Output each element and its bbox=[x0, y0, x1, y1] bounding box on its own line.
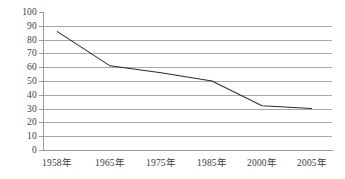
x-axis-tick-label: 1965年 bbox=[82, 158, 138, 169]
data-line-series-0 bbox=[57, 31, 312, 108]
x-axis-tick-label: 2005年 bbox=[284, 158, 340, 169]
x-axis-tick-label: 1985年 bbox=[184, 158, 240, 169]
series-layer bbox=[0, 0, 345, 179]
x-axis-tick-label: 1958年 bbox=[29, 158, 85, 169]
line-chart-figure: 1009080706050403020100 1958年1965年1975年19… bbox=[0, 0, 345, 179]
x-axis-tick-label: 1975年 bbox=[133, 158, 189, 169]
x-axis-tick-label: 2000年 bbox=[234, 158, 290, 169]
